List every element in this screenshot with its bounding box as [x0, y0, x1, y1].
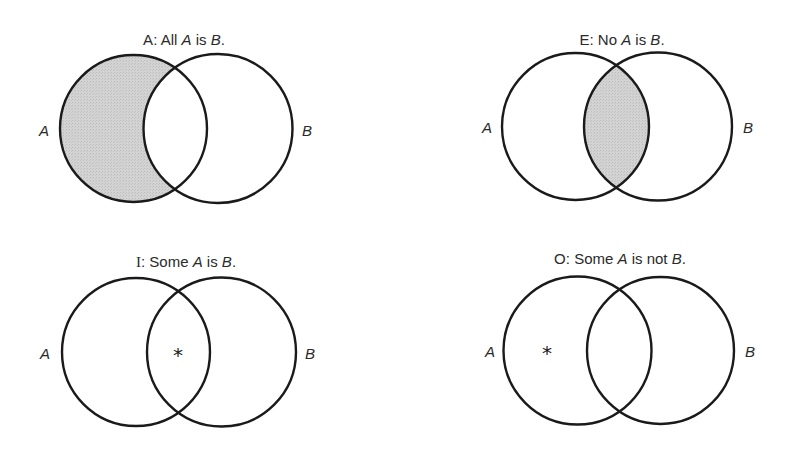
label-a: A	[39, 345, 50, 362]
diagram-a: A: All A is B. A B	[0, 0, 400, 226]
figure-canvas: A: All A is B. A B E: No A is B. A B I: …	[0, 0, 793, 452]
label-a: A	[484, 343, 495, 360]
diagram-i: I: Some A is B. * A B	[39, 253, 315, 427]
circle-b	[147, 278, 296, 427]
circle-b	[587, 277, 734, 424]
circle-a	[62, 278, 210, 426]
label-b: B	[302, 122, 312, 139]
label-b: B	[743, 119, 753, 136]
existence-marker-asterisk-icon: *	[542, 341, 552, 365]
diagram-i-title: I: Some A is B.	[136, 253, 236, 270]
existence-marker-asterisk-icon: *	[173, 343, 183, 367]
diagram-e: E: No A is B. A B	[481, 31, 753, 201]
circle-a	[504, 277, 652, 425]
label-a: A	[38, 122, 49, 139]
diagram-e-title: E: No A is B.	[579, 31, 664, 48]
label-b: B	[305, 345, 315, 362]
diagram-o: O: Some A is not B. * A B	[484, 250, 755, 425]
label-a: A	[481, 119, 492, 136]
diagram-o-title: O: Some A is not B.	[554, 250, 686, 267]
label-b: B	[745, 343, 755, 360]
shaded-region-a-only	[0, 0, 400, 226]
venn-diagram-figure: A: All A is B. A B E: No A is B. A B I: …	[0, 0, 793, 452]
